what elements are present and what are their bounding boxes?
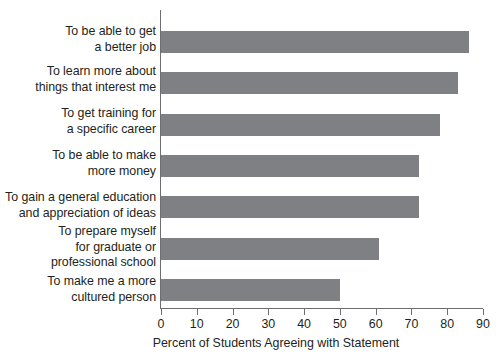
- x-tick-label: 10: [177, 317, 217, 332]
- plot-area: [161, 10, 491, 308]
- category-label: To be able to get a better job: [0, 24, 156, 55]
- x-tick-label: 90: [463, 317, 503, 332]
- x-tick: [197, 309, 198, 315]
- x-tick-label: 30: [248, 317, 288, 332]
- bar-4: [161, 196, 419, 218]
- x-tick-label: 80: [427, 317, 467, 332]
- category-label: To get training for a specific career: [0, 106, 156, 137]
- category-axis-labels: To be able to get a better job To learn …: [0, 0, 156, 308]
- bar-2: [161, 114, 440, 136]
- bar-0: [161, 31, 469, 53]
- x-tick: [411, 309, 412, 315]
- bar-1: [161, 72, 458, 94]
- bar-5: [161, 238, 379, 260]
- x-tick: [304, 309, 305, 315]
- x-tick: [340, 309, 341, 315]
- x-tick-label: 70: [391, 317, 431, 332]
- x-tick-label: 0: [141, 317, 181, 332]
- x-axis-title: Percent of Students Agreeing with Statem…: [0, 336, 504, 350]
- x-tick-label: 50: [320, 317, 360, 332]
- x-tick-label: 20: [213, 317, 253, 332]
- y-axis-line: [160, 10, 161, 308]
- x-tick: [483, 309, 484, 315]
- category-label: To gain a general education and apprecia…: [0, 190, 156, 221]
- x-tick-label: 60: [356, 317, 396, 332]
- x-tick: [376, 309, 377, 315]
- category-label: To learn more about things that interest…: [0, 64, 156, 95]
- category-label: To make me a more cultured person: [0, 274, 156, 305]
- x-axis-line: [160, 308, 483, 309]
- x-tick: [233, 309, 234, 315]
- bar-6: [161, 279, 340, 301]
- x-tick: [447, 309, 448, 315]
- x-tick: [268, 309, 269, 315]
- bar-3: [161, 155, 419, 177]
- bar-chart: To be able to get a better job To learn …: [0, 0, 504, 364]
- x-tick-label: 40: [284, 317, 324, 332]
- x-tick: [161, 309, 162, 315]
- category-label: To be able to make more money: [0, 148, 156, 179]
- category-label: To prepare myself for graduate or profes…: [0, 224, 156, 271]
